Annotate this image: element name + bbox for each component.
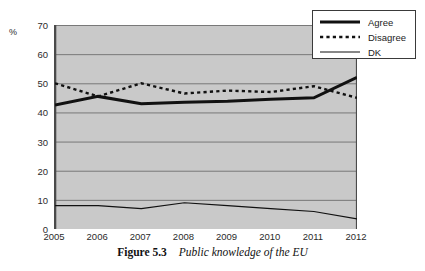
legend-swatch-agree-icon — [319, 17, 361, 27]
y-axis-tick-40: 40 — [26, 107, 48, 118]
figure-caption-title: Public knowledge of the EU — [179, 246, 308, 258]
x-axis-tick-2005: 2005 — [37, 231, 71, 242]
series-line-disagree — [55, 83, 357, 98]
figure-caption-label: Figure 5.3 — [117, 246, 167, 258]
legend-label-disagree: Disagree — [368, 32, 406, 43]
x-axis-tick-2008: 2008 — [166, 231, 200, 242]
legend-swatch-dk-icon — [319, 47, 361, 57]
y-axis-tick-30: 30 — [26, 136, 48, 147]
series-line-dk — [55, 203, 357, 219]
figure-caption: Figure 5.3 Public knowledge of the EU — [0, 246, 425, 258]
x-axis-tick-2011: 2011 — [296, 231, 330, 242]
x-axis-tick-2009: 2009 — [210, 231, 244, 242]
y-axis-tick-50: 50 — [26, 78, 48, 89]
x-axis-tick-2007: 2007 — [123, 231, 157, 242]
legend-item-disagree[interactable]: Disagree — [313, 30, 415, 44]
x-axis-tick-2010: 2010 — [253, 231, 287, 242]
y-axis-tick-70: 70 — [26, 20, 48, 31]
legend-item-agree[interactable]: Agree — [313, 15, 415, 29]
y-axis-tick-20: 20 — [26, 165, 48, 176]
legend-swatch-disagree-icon — [319, 32, 361, 42]
legend-label-dk: DK — [368, 47, 381, 58]
x-axis-tick-2006: 2006 — [80, 231, 114, 242]
y-axis-tick-60: 60 — [26, 49, 48, 60]
y-axis-unit-label: % — [9, 27, 17, 37]
y-axis-tick-10: 10 — [26, 194, 48, 205]
legend-item-dk[interactable]: DK — [313, 45, 415, 59]
chart-legend: AgreeDisagreeDK — [312, 10, 416, 59]
legend-label-agree: Agree — [368, 17, 393, 28]
figure-container: % 010203040506070 2005200620072008200920… — [0, 0, 425, 271]
x-axis-tick-2012: 2012 — [339, 231, 373, 242]
